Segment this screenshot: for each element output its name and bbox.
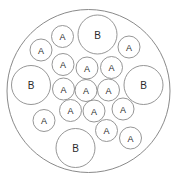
packed-circle-a-17: A: [96, 120, 118, 142]
packed-circle-a-8: A: [76, 57, 98, 79]
circle-label: A: [84, 64, 90, 74]
packed-circle-a-11: A: [75, 80, 97, 102]
circle-label: A: [67, 106, 73, 116]
packed-circle-a-10: A: [53, 78, 75, 100]
packed-circle-a-9: A: [101, 57, 123, 79]
packed-circle-a-18: A: [120, 127, 142, 149]
packed-circle-a-15: A: [112, 98, 134, 120]
circle-label: A: [105, 86, 111, 96]
circle-label: A: [60, 85, 66, 95]
circle-label: B: [72, 143, 79, 154]
circle-label: A: [126, 43, 132, 53]
packed-circle-a-7: A: [52, 54, 74, 76]
circle-label: A: [59, 32, 65, 42]
circle-label: A: [91, 107, 97, 117]
packed-circle-a-12: A: [98, 79, 120, 101]
circle-label: A: [38, 46, 44, 56]
circle-label: A: [103, 126, 109, 136]
packed-circle-a-5: A: [30, 39, 52, 61]
circle-label: A: [127, 134, 133, 144]
packing-canvas: BBBBAAAAAAAAAAAAAAA: [0, 0, 178, 183]
circle-label: B: [28, 80, 35, 91]
circle-label: A: [120, 105, 126, 115]
packed-circle-a-14: A: [83, 100, 105, 122]
packed-circle-a-4: A: [52, 26, 74, 48]
circle-label: B: [140, 80, 147, 91]
packed-circle-a-16: A: [33, 110, 55, 132]
circle-label: A: [108, 63, 114, 73]
circle-label: A: [83, 86, 89, 96]
packed-circle-a-13: A: [60, 100, 82, 122]
circle-label: A: [60, 60, 66, 70]
circle-label: B: [94, 30, 101, 41]
packed-circle-b-0: B: [78, 15, 117, 54]
packed-circle-b-3: B: [56, 129, 95, 168]
packed-circle-a-6: A: [118, 36, 140, 58]
packed-circle-b-1: B: [12, 66, 51, 105]
circle-packing-diagram: BBBBAAAAAAAAAAAAAAA: [0, 0, 178, 183]
packed-circle-b-2: B: [124, 66, 163, 105]
circle-label: A: [41, 116, 47, 126]
